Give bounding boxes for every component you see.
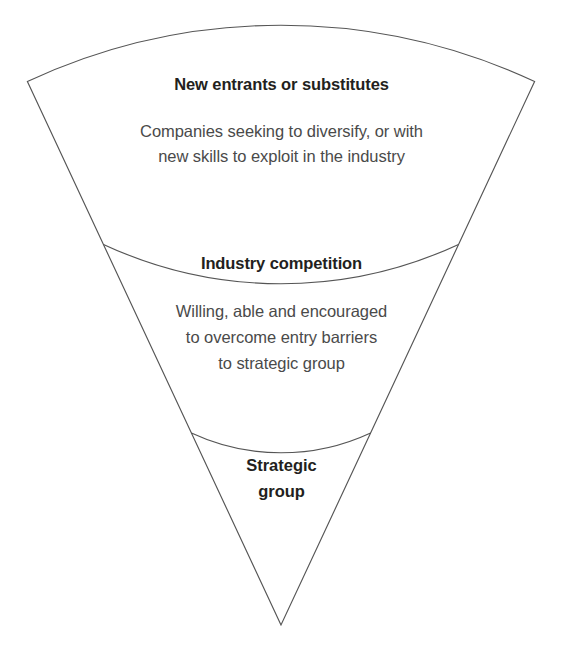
outer-band-outline (27, 25, 534, 625)
sector-shape-group (0, 0, 563, 655)
sector-diagram: New entrants or substitutes Companies se… (0, 0, 563, 655)
